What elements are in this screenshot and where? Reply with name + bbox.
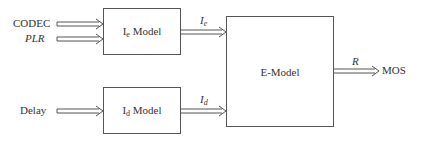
r-arrow [334,66,379,76]
id-edge-label: Id [200,93,208,107]
ie-model-box: Ie Model [103,8,181,55]
codec-arrow [57,19,103,29]
e-model-label: E-Model [260,66,299,78]
id-arrow [181,106,226,116]
plr-arrow [57,34,103,44]
ie-model-label: Ie Model [123,25,162,39]
delay-arrow [57,106,103,116]
r-edge-label: R [352,55,359,67]
e-model-box: E-Model [226,16,334,127]
plr-label: PLR [25,32,45,44]
id-model-label: Id Model [122,104,161,118]
id-model-box: Id Model [103,87,181,134]
mos-label: MOS [382,64,406,76]
arrows-layer [0,0,423,143]
delay-label: Delay [20,104,46,116]
ie-edge-label: Ie [200,14,207,28]
ie-arrow [181,27,226,37]
codec-label: CODEC [13,17,50,29]
